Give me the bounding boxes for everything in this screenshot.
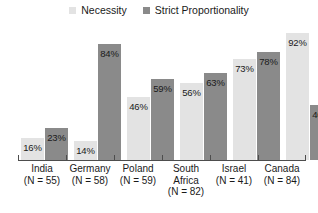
x-axis-tick [258, 155, 259, 160]
legend-label-necessity: Necessity [81, 5, 127, 16]
x-axis-line [18, 160, 306, 161]
x-axis-tick [210, 155, 211, 160]
category-label: Canada(N = 84) [258, 163, 306, 198]
category-label: South Africa(N = 82) [162, 163, 210, 198]
bar-necessity: 73% [233, 59, 256, 160]
x-axis-tick [162, 155, 163, 160]
bar-value-label: 63% [204, 78, 227, 88]
bar-value-label: 56% [180, 88, 203, 98]
bar-strict: 63% [204, 73, 227, 160]
category-sample-size: (N = 84) [258, 175, 306, 187]
category-label: Poland(N = 59) [114, 163, 162, 198]
category-label: Israel(N = 41) [210, 163, 258, 198]
category-label: Germany(N = 58) [66, 163, 114, 198]
category-name: Poland [114, 163, 162, 175]
category-sample-size: (N = 58) [66, 175, 114, 187]
bar-value-label: 16% [21, 143, 44, 153]
bar-group: 73%78% [230, 22, 283, 160]
legend-item-strict-proportionality: Strict Proportionality [143, 5, 249, 16]
grouped-bar-chart: Necessity Strict Proportionality 16%23%1… [0, 0, 318, 213]
chart-legend: Necessity Strict Proportionality [0, 5, 318, 16]
x-axis-tick [114, 155, 115, 160]
x-axis-tick [66, 155, 67, 160]
bar-value-label: 73% [233, 64, 256, 74]
legend-swatch-icon-necessity [69, 7, 76, 14]
category-name: South Africa [162, 163, 210, 186]
bar-group: 56%63% [177, 22, 230, 160]
bar-strict: 78% [257, 52, 280, 160]
bar-strict: 84% [98, 44, 121, 160]
category-sample-size: (N = 82) [162, 186, 210, 198]
bar-necessity: 92% [286, 33, 309, 160]
bar-value-label: 84% [98, 49, 121, 59]
category-name: India [18, 163, 66, 175]
category-sample-size: (N = 59) [114, 175, 162, 187]
bar-value-label: 78% [257, 57, 280, 67]
plot-area: 16%23%14%84%46%59%56%63%73%78%92%40% [18, 22, 306, 160]
x-axis-ticks [18, 155, 306, 160]
bar-strict: 40% [310, 105, 318, 160]
x-axis-category-labels: India(N = 55)Germany(N = 58)Poland(N = 5… [18, 163, 306, 198]
bar-necessity: 46% [127, 97, 150, 160]
bar-necessity: 56% [180, 83, 203, 160]
category-sample-size: (N = 55) [18, 175, 66, 187]
category-name: Germany [66, 163, 114, 175]
bar-strict: 59% [151, 79, 174, 160]
legend-swatch-icon-strict-proportionality [143, 7, 150, 14]
category-name: Israel [210, 163, 258, 175]
bar-group: 46%59% [124, 22, 177, 160]
bar-group: 16%23% [18, 22, 71, 160]
legend-item-necessity: Necessity [69, 5, 127, 16]
bar-value-label: 23% [45, 133, 68, 143]
category-label: India(N = 55) [18, 163, 66, 198]
bar-group: 14%84% [71, 22, 124, 160]
category-name: Canada [258, 163, 306, 175]
bar-value-label: 92% [286, 38, 309, 48]
bar-value-label: 40% [310, 110, 318, 120]
bar-value-label: 59% [151, 84, 174, 94]
bar-group: 92%40% [283, 22, 318, 160]
category-sample-size: (N = 41) [210, 175, 258, 187]
bar-groups: 16%23%14%84%46%59%56%63%73%78%92%40% [18, 22, 306, 160]
bar-value-label: 46% [127, 102, 150, 112]
legend-label-strict-proportionality: Strict Proportionality [155, 5, 249, 16]
